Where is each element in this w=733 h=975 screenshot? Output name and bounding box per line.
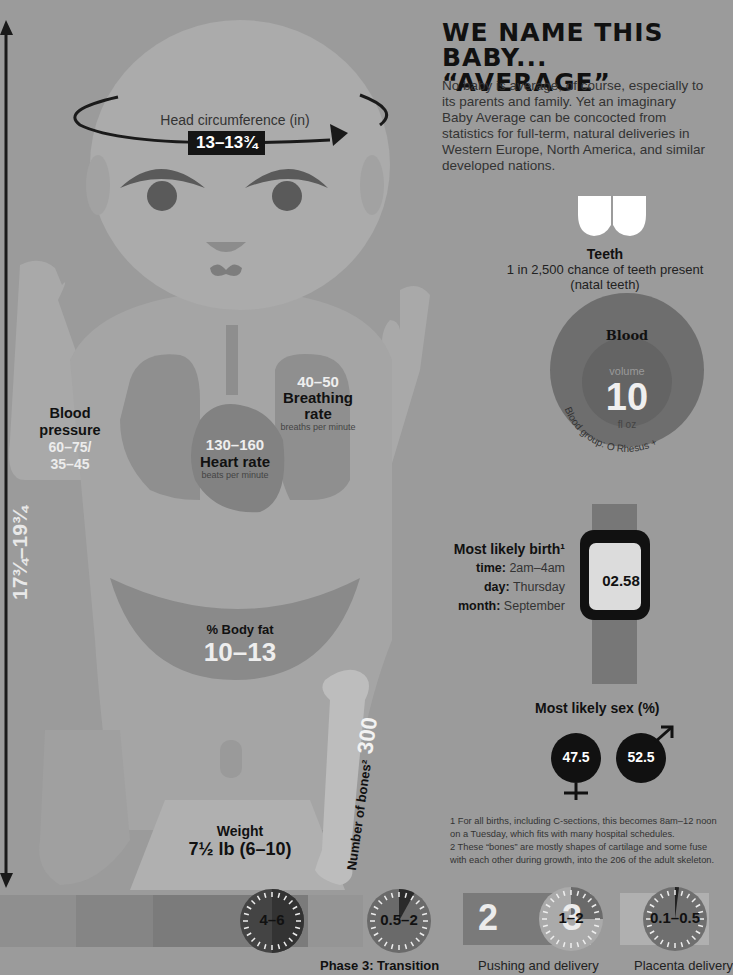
blood-volume-unit: fl oz (587, 419, 667, 430)
footnotes: 1 For all births, including C-sections, … (450, 815, 720, 867)
bones-value: 300 (352, 716, 382, 756)
breathing-rate-label-2: rate (268, 406, 368, 422)
dial-label: 4–6 (232, 911, 312, 928)
body-fat-label: % Body fat (170, 622, 310, 637)
birth-value: 2am–4am (509, 561, 565, 575)
birth-key: time: (476, 561, 506, 575)
length-value: 17¾–19¾ (8, 507, 32, 600)
watch-time: 02.58 (593, 572, 649, 589)
birth-value: September (504, 599, 565, 613)
dial-label: 0.5–2 (359, 911, 439, 928)
teeth-label: Teeth (500, 247, 710, 262)
teeth-info: Teeth 1 in 2,500 chance of teeth present… (500, 247, 710, 292)
birth-value: Thursday (513, 580, 565, 594)
blood-pressure: Blood pressure 60–75/ 35–45 (30, 405, 110, 473)
right-ear (360, 155, 384, 215)
heart-rate: 130–160 Heart rate beats per minute (190, 436, 280, 480)
breathing-rate-unit: breaths per minute (268, 422, 368, 432)
heart-rate-value: 130–160 (190, 436, 280, 453)
most-likely-birth: Most likely birth¹ time: 2am–4am day: Th… (430, 540, 565, 616)
stage-number-2: 2 (478, 897, 498, 939)
blood-volume-value: 10 (587, 376, 667, 419)
intro-text: No baby is average, of course, especiall… (442, 78, 707, 174)
title-line-1: WE NAME THIS BABY... (442, 20, 712, 70)
blood-title: Blood (587, 328, 667, 343)
birth-title: Most likely birth¹ (430, 540, 565, 559)
weight: Weight 7½ lb (6–10) (160, 823, 320, 860)
footnote-2: 2 These “bones” are mostly shapes of car… (450, 841, 720, 867)
blood-pressure-systolic: 60–75/ (30, 439, 110, 456)
heart-rate-unit: beats per minute (190, 470, 280, 480)
teeth-line-1: 1 in 2,500 chance of teeth present (500, 262, 710, 277)
female-percent: 47.5 (551, 749, 601, 765)
watch-icon (580, 504, 650, 684)
birth-row: time: 2am–4am (430, 559, 565, 578)
birth-row: month: September (430, 597, 565, 616)
phase-label-pushing: Pushing and delivery (478, 958, 599, 973)
weight-label: Weight (160, 823, 320, 839)
birth-key: month: (458, 599, 500, 613)
navel (220, 740, 242, 778)
teeth-line-2: (natal teeth) (500, 277, 710, 292)
trachea (226, 325, 238, 395)
female-symbol (551, 733, 601, 800)
weight-value: 7½ lb (6–10) (160, 839, 320, 860)
breathing-rate-label: Breathing (268, 390, 368, 406)
male-percent: 52.5 (616, 749, 666, 765)
blood-pressure-label: Blood (30, 405, 110, 422)
left-ear (86, 155, 110, 215)
body-fat-value: 10–13 (170, 637, 310, 668)
birth-key: day: (484, 580, 510, 594)
breathing-rate-value: 40–50 (268, 373, 368, 390)
footnote-1: 1 For all births, including C-sections, … (450, 815, 720, 841)
phase-label-placenta: Placenta delivery (634, 958, 733, 973)
right-eye (272, 181, 302, 211)
body-fat: % Body fat 10–13 (170, 622, 310, 668)
left-leg (39, 730, 130, 885)
dial-label: 1–2 (531, 909, 611, 926)
birth-row: day: Thursday (430, 578, 565, 597)
left-eye (147, 181, 177, 211)
head-circumference-value: 13–13¾ (188, 131, 265, 155)
sex-title: Most likely sex (%) (535, 700, 715, 716)
heart-rate-label: Heart rate (190, 453, 280, 470)
breathing-rate: 40–50 Breathing rate breaths per minute (268, 373, 368, 432)
dial-label: 0.1–0.5 (635, 909, 715, 926)
blood-pressure-diastolic: 35–45 (30, 456, 110, 473)
phase-label-transition: Phase 3: Transition (320, 958, 439, 973)
teeth-icon (578, 196, 646, 236)
blood-pressure-label-2: pressure (30, 422, 110, 439)
head-circumference-label: Head circumference (in) (150, 112, 320, 128)
